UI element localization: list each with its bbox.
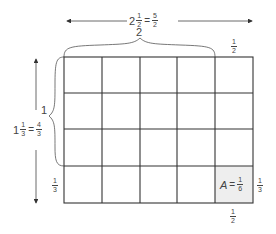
width-whole: 2 (129, 15, 135, 27)
cell-area-label: A = 16 (220, 176, 243, 193)
width-improper-fraction: 52 (152, 12, 158, 29)
top-brace (64, 38, 215, 57)
height-fraction: 13 (20, 121, 26, 138)
left-brace-label: 1 (41, 104, 47, 116)
height-whole: 1 (13, 124, 19, 136)
top-brace-label: 2 (136, 26, 142, 38)
height-label: 1 13 = 43 (13, 119, 42, 140)
equals: = (144, 15, 150, 26)
area-variable: A (220, 179, 227, 191)
equals: = (229, 179, 235, 190)
area-fraction: 16 (237, 176, 243, 193)
right-fraction: 13 (257, 177, 263, 194)
left-bottom-fraction: 13 (52, 177, 58, 194)
left-brace (49, 57, 64, 166)
equals: = (28, 124, 34, 135)
width-label: 2 12 = 52 (127, 12, 160, 29)
top-right-fraction: 12 (231, 38, 237, 55)
bottom-fraction: 12 (230, 208, 236, 225)
height-improper-fraction: 43 (36, 121, 42, 138)
